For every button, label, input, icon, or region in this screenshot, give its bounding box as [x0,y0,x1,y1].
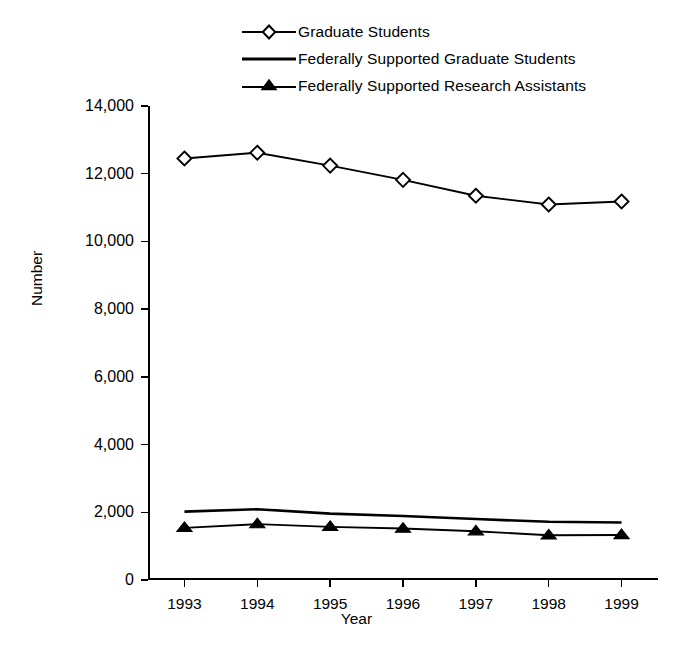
data-point-marker [250,518,265,528]
data-point-marker [615,194,629,208]
series-graduate-students [177,146,628,212]
data-point-marker [177,151,191,165]
y-tick: 12,000 [141,173,148,174]
chart-figure: Graduate Students Federally Supported Gr… [0,0,685,657]
y-tick: 4,000 [141,444,148,445]
data-point-marker [469,189,483,203]
legend-item-federally-supported-graduate-students: Federally Supported Graduate Students [240,49,586,69]
x-tick: 1998 [548,580,549,587]
filled-triangle-marker-icon [240,76,298,96]
y-tick: 2,000 [141,512,148,513]
data-point-marker [323,159,337,173]
series-line [184,509,621,522]
y-tick-label: 14,000 [85,98,134,114]
legend-item-graduate-students: Graduate Students [240,22,586,42]
legend-item-federally-supported-research-assistants: Federally Supported Research Assistants [240,76,586,96]
x-axis-title-text: Year [341,610,372,628]
data-point-marker [396,173,410,187]
y-tick-label: 6,000 [94,369,134,385]
series-federally-supported-graduate-students [184,509,621,522]
data-series-layer [148,106,658,580]
data-point-marker [250,146,264,160]
y-tick-label: 8,000 [94,301,134,317]
line-marker-icon [240,49,298,69]
y-tick-label: 0 [125,572,134,588]
y-tick-label: 4,000 [94,437,134,453]
open-diamond-marker-icon [240,22,298,42]
y-tick-label: 2,000 [94,504,134,520]
plot-area: 02,0004,0006,0008,00010,00012,00014,000 … [148,106,658,580]
x-tick: 1999 [621,580,622,587]
y-tick: 10,000 [141,241,148,242]
y-tick: 6,000 [141,376,148,377]
y-tick-label: 12,000 [85,166,134,182]
x-tick: 1994 [257,580,258,587]
x-tick: 1996 [402,580,403,587]
x-axis-title: Year [0,610,685,628]
y-tick: 0 [141,579,148,580]
chart-legend: Graduate Students Federally Supported Gr… [240,22,586,96]
x-tick: 1997 [475,580,476,587]
y-tick: 14,000 [141,105,148,106]
data-point-marker [614,529,629,539]
legend-label: Graduate Students [298,22,430,42]
legend-label: Federally Supported Graduate Students [298,49,576,69]
y-tick-label: 10,000 [85,233,134,249]
y-tick: 8,000 [141,308,148,309]
data-point-marker [396,523,411,533]
legend-label: Federally Supported Research Assistants [298,76,586,96]
y-axis-title: Number [28,251,46,306]
data-point-marker [542,198,556,212]
x-tick: 1995 [329,580,330,587]
x-tick: 1993 [184,580,185,587]
